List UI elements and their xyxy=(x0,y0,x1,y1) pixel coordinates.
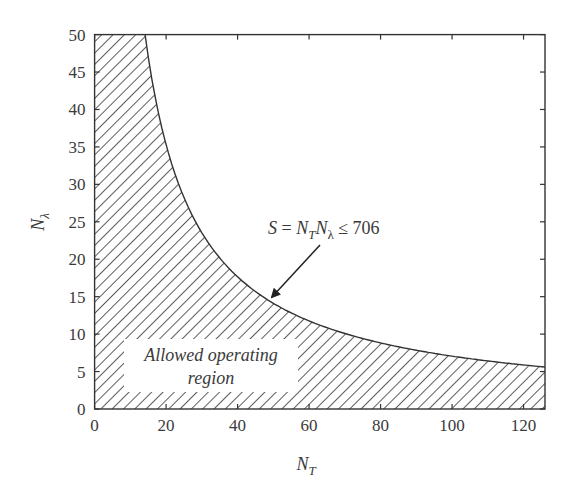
x-tick-label: 60 xyxy=(301,416,318,435)
y-tick-label: 40 xyxy=(69,100,86,119)
x-tick-label: 120 xyxy=(511,416,537,435)
y-tick-label: 5 xyxy=(77,363,86,382)
y-tick-label: 45 xyxy=(69,63,86,82)
y-tick-label: 30 xyxy=(69,175,86,194)
y-tick-label: 25 xyxy=(69,213,86,232)
y-axis-label: Nλ xyxy=(28,213,52,232)
constraint-annotation: S = NTNλ ≤ 706 xyxy=(268,218,380,242)
x-axis-label: NT xyxy=(295,454,316,478)
x-tick-label: 100 xyxy=(439,416,465,435)
y-tick-label: 50 xyxy=(69,26,86,45)
x-tick-label: 0 xyxy=(90,416,99,435)
region-label-line1: Allowed operating xyxy=(143,345,278,365)
y-tick-label: 35 xyxy=(69,138,86,157)
annotation-arrow xyxy=(272,245,320,297)
x-tick-label: 40 xyxy=(229,416,246,435)
y-tick-label: 20 xyxy=(69,250,86,269)
region-label-line2: region xyxy=(188,368,234,388)
y-tick-label: 15 xyxy=(69,288,86,307)
x-tick-label: 20 xyxy=(158,416,175,435)
chart: 020406080100120 05101520253035404550 NT … xyxy=(0,0,574,497)
y-tick-label: 10 xyxy=(69,325,86,344)
x-tick-label: 80 xyxy=(372,416,389,435)
y-tick-label: 0 xyxy=(77,400,86,419)
